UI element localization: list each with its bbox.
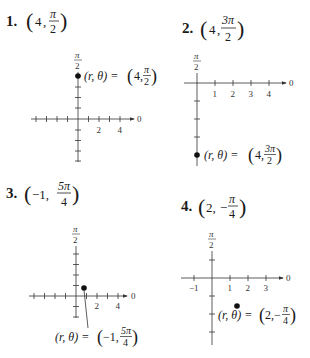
axis-top-num: π — [209, 229, 214, 239]
polar-plots-figure: 1. ( 4 , π 2 ) π 2 0 2 4 (r, θ) = ( 4, — [0, 0, 310, 358]
problem-number: 1. — [6, 13, 18, 29]
point-label-theta-num: 5π — [121, 325, 132, 336]
tick-label: 2 — [246, 283, 251, 293]
problem-2: 2. ( 4 , 3π 2 ) π 2 0 1 2 3 4 (r, θ) = (… — [182, 13, 294, 166]
problem-3: 3. ( −1, 5π 4 ) π 2 0 2 4 (r, θ) = ( −1,… — [6, 179, 138, 348]
point-label-theta-den: 2 — [267, 155, 272, 166]
close-paren: ) — [60, 8, 67, 33]
heading-theta-den: 4 — [229, 207, 235, 221]
axis-zero-label: 0 — [289, 78, 294, 88]
heading-r: 2, — [206, 200, 216, 215]
problem-4: 4. ( 2, − π 4 ) π 2 0 −1 1 2 3 (r, θ) = … — [181, 192, 296, 345]
tick-label: 4 — [118, 125, 123, 135]
point-label-theta-num: 3π — [264, 143, 276, 154]
svg-text:(: ( — [248, 145, 254, 166]
tick-label: −1 — [189, 283, 199, 293]
plotted-point — [194, 152, 200, 158]
problem-number: 3. — [6, 185, 18, 201]
heading-theta-sign: − — [220, 200, 227, 215]
svg-text:): ) — [290, 305, 296, 326]
tick-label: 1 — [228, 283, 233, 293]
point-label-sign: − — [274, 308, 281, 322]
plotted-point — [81, 285, 87, 291]
tick-label: 1 — [213, 89, 218, 99]
problem-number: 2. — [182, 20, 194, 36]
svg-text:): ) — [132, 327, 138, 348]
svg-text:): ) — [239, 194, 246, 219]
svg-text:(: ( — [198, 194, 205, 219]
axis-top-den: 2 — [75, 61, 80, 71]
heading-comma: , — [43, 14, 46, 29]
heading-theta-num: π — [50, 7, 57, 21]
tick-label: 4 — [116, 301, 121, 311]
svg-text:(: ( — [24, 181, 31, 206]
point-label-theta-den: 4 — [283, 315, 288, 326]
point-label-r: 4, — [255, 148, 264, 162]
point-label-lhs: (r, θ) = — [204, 148, 238, 162]
problem-1: 1. ( 4 , π 2 ) π 2 0 2 4 (r, θ) = ( 4, — [6, 7, 157, 162]
tick-label: 3 — [264, 283, 269, 293]
point-label-theta-num: π — [144, 64, 150, 75]
tick-label: 3 — [249, 89, 254, 99]
point-label-lhs: (r, θ) = — [84, 69, 118, 83]
heading-theta-den: 2 — [225, 30, 231, 44]
axis-top-num: π — [73, 224, 78, 234]
heading-r: 4 — [35, 14, 42, 29]
axis-top-den: 2 — [209, 240, 214, 250]
tick-label: 2 — [97, 125, 102, 135]
point-label-theta-num: π — [283, 303, 289, 314]
heading-theta-den: 2 — [50, 22, 56, 36]
heading-theta-num: π — [229, 192, 236, 206]
point-label-theta-den: 2 — [144, 76, 149, 87]
point-label-r: 2, — [265, 308, 274, 322]
axis-top-den: 2 — [194, 62, 199, 72]
point-label-r: −1, — [103, 330, 119, 344]
svg-text:(: ( — [200, 16, 207, 41]
tick-label: 2 — [95, 301, 100, 311]
svg-text:): ) — [151, 66, 157, 87]
point-label-theta-den: 4 — [123, 337, 128, 348]
point-label-lhs: (r, θ) = — [218, 308, 252, 322]
axis-top-den: 2 — [73, 235, 78, 245]
svg-text:): ) — [276, 145, 282, 166]
tick-label: 2 — [231, 89, 236, 99]
axis-top-num: π — [194, 51, 199, 61]
heading-theta-num: 5π — [58, 179, 71, 193]
axis-zero-label: 0 — [137, 114, 142, 124]
svg-text:): ) — [72, 181, 79, 206]
tick-label: 4 — [267, 89, 272, 99]
heading-r: −1, — [32, 187, 49, 202]
svg-text:(: ( — [127, 66, 133, 87]
point-label-r: 4, — [134, 69, 143, 83]
heading-theta-num: 3π — [221, 13, 235, 27]
svg-text:,: , — [217, 22, 220, 37]
heading-r: 4 — [209, 22, 216, 37]
open-paren: ( — [26, 8, 33, 33]
point-label-lhs: (r, θ) = — [55, 330, 89, 344]
axis-zero-label: 0 — [286, 273, 291, 283]
axis-zero-label: 0 — [131, 291, 136, 301]
svg-text:): ) — [237, 16, 244, 41]
heading-theta-den: 4 — [61, 195, 67, 209]
problem-number: 4. — [181, 198, 193, 214]
axis-top-num: π — [75, 50, 80, 60]
plotted-point — [75, 73, 81, 79]
